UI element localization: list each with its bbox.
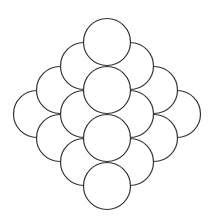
circle — [84, 115, 131, 162]
caption — [0, 213, 215, 222]
circle — [84, 19, 131, 66]
circle — [84, 163, 131, 210]
circle-diamond-diagram — [0, 0, 215, 222]
circle — [84, 67, 131, 114]
